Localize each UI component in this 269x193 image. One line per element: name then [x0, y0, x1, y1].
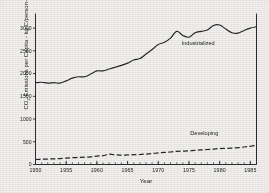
series-annotation: Industrialized — [182, 40, 215, 46]
y-axis-title-post: Emissions per Capita - kg C/person-year — [23, 0, 29, 98]
x-axis-tick-label: 1955 — [60, 167, 72, 173]
x-axis-tick-label: 1985 — [244, 167, 256, 173]
y-axis-title-subscript: 2 — [26, 98, 31, 100]
y-axis-title: CO2 Emissions per Capita - kg C/person-y… — [14, 0, 32, 124]
x-axis-tick-label: 1975 — [183, 167, 195, 173]
y-axis-title-pre: CO — [23, 101, 29, 110]
series-line-developing — [36, 145, 257, 159]
y-axis-tick-label: 500 — [23, 139, 32, 145]
x-axis-title: Year — [140, 177, 153, 184]
series-line-industrialized — [36, 25, 257, 84]
co2-emissions-per-capita-line-chart: 0500100015002000250030001950195519601965… — [0, 0, 269, 193]
x-axis-tick-label: 1960 — [91, 167, 103, 173]
x-axis-tick-label: 1965 — [121, 167, 133, 173]
axes-layer — [33, 14, 257, 165]
x-axis-tick-label: 1980 — [214, 167, 226, 173]
series-annotation: Developing — [190, 130, 218, 136]
figure-canvas: 0500100015002000250030001950195519601965… — [0, 0, 269, 193]
series-layer — [36, 25, 257, 160]
labels-layer: 0500100015002000250030001950195519601965… — [20, 25, 256, 184]
x-axis-tick-label: 1950 — [29, 167, 41, 173]
x-axis-tick-label: 1970 — [152, 167, 164, 173]
